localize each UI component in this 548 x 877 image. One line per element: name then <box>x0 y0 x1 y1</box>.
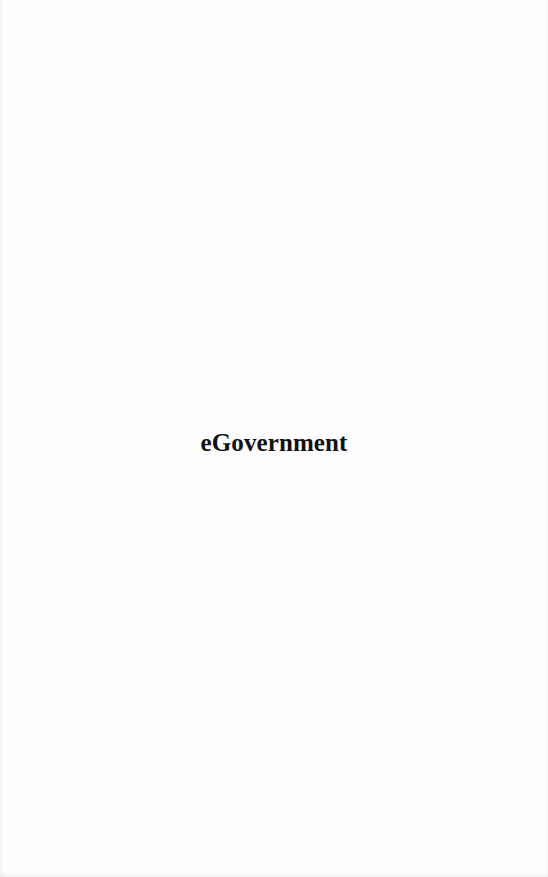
book-page: eGovernment <box>0 0 548 877</box>
page-title: eGovernment <box>0 427 548 459</box>
